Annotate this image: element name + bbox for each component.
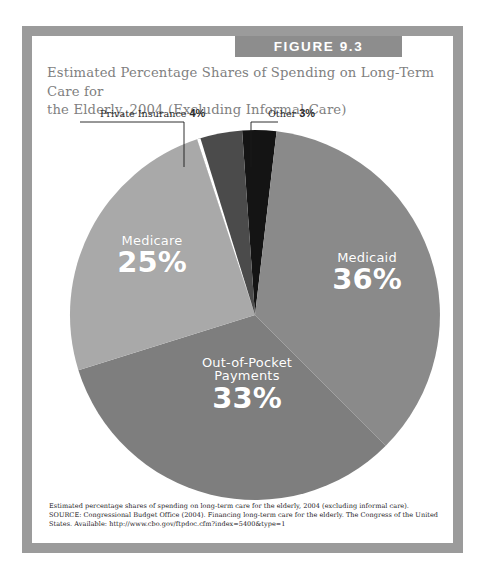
figure-caption-line-1: Estimated percentage shares of spending …	[49, 502, 439, 511]
slice-label-out-of-pocket-name-line-1: Out-of-Pocket	[172, 356, 322, 369]
callout-private-insurance: Private Insurance 4%	[100, 107, 205, 119]
slice-label-medicaid: Medicaid 36%	[302, 251, 432, 295]
figure-caption: Estimated percentage shares of spending …	[49, 502, 439, 530]
slice-label-medicare-value: 25%	[87, 248, 217, 278]
callout-other: Other 3%	[268, 107, 315, 119]
figure-body: FIGURE 9.3 Estimated Percentage Shares o…	[32, 36, 453, 543]
figure-caption-line-2: SOURCE: Congressional Budget Office (200…	[49, 511, 439, 520]
slice-label-out-of-pocket-name: Out-of-Pocket Payments	[172, 356, 322, 383]
pie-slices	[70, 130, 440, 500]
figure-caption-line-3: States. Available: http://www.cbo.gov/ft…	[49, 520, 439, 529]
callout-private-insurance-value: 4%	[190, 107, 206, 119]
slice-label-out-of-pocket: Out-of-Pocket Payments 33%	[172, 356, 322, 413]
callout-other-value: 3%	[299, 107, 315, 119]
slice-label-medicare: Medicare 25%	[87, 234, 217, 278]
slice-label-out-of-pocket-value: 33%	[172, 384, 322, 414]
slice-label-medicaid-value: 36%	[302, 265, 432, 295]
callout-other-name: Other	[268, 108, 296, 119]
callout-private-insurance-name: Private Insurance	[100, 108, 186, 119]
figure-frame: FIGURE 9.3 Estimated Percentage Shares o…	[22, 26, 463, 553]
